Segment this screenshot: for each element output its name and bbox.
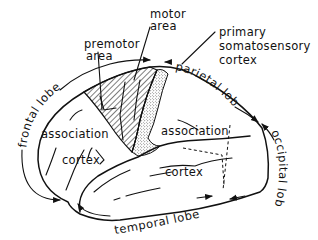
parietal-lobe-arc	[235, 107, 258, 122]
motor-label-2: area	[150, 19, 177, 33]
frontal-cortex-label: cortex	[62, 153, 100, 167]
brain-diagram: premotor area motor area primary somatos…	[0, 0, 318, 240]
somatosensory-label: primary	[219, 25, 266, 39]
temporal-lobe-arc	[78, 204, 110, 216]
posterior-cortex-label: cortex	[165, 165, 203, 179]
frontal-association-label: association	[41, 127, 109, 141]
somato-leader	[182, 32, 215, 64]
premotor-label-2: area	[86, 49, 113, 63]
temporal-lobe-label: temporal lobe	[113, 206, 201, 236]
posterior-association-label: association	[161, 124, 229, 138]
somatosensory-label-3: cortex	[219, 53, 257, 67]
somatosensory-label-2: somatosensory	[219, 39, 311, 53]
